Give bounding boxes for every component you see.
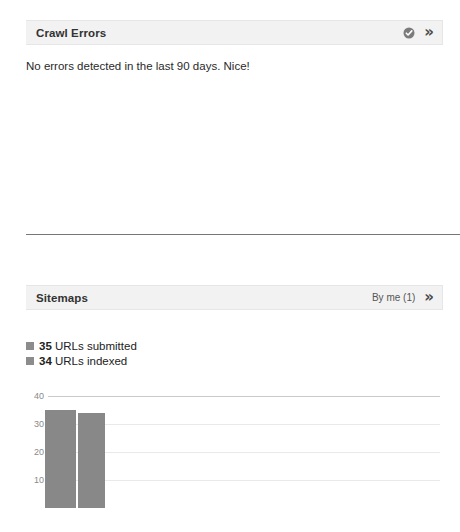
legend-item: 34 URLs indexed [26, 354, 137, 367]
legend-item-text: URLs indexed [52, 355, 127, 367]
chart-bar[interactable] [45, 410, 76, 508]
crawl-errors-title: Crawl Errors [36, 27, 106, 39]
double-chevron-right-icon[interactable]: » [424, 290, 434, 305]
sitemaps-filter-label[interactable]: By me (1) [372, 292, 415, 303]
sitemaps-header[interactable]: Sitemaps By me (1) » [26, 285, 443, 310]
legend-item-value: 34 [39, 355, 52, 367]
legend-item-label: 34 URLs indexed [39, 355, 127, 367]
legend-item: 35 URLs submitted [26, 339, 137, 352]
section-divider [26, 234, 460, 235]
chart-ytick-label: 30 [26, 419, 44, 429]
chart-ytick-label: 20 [26, 447, 44, 457]
legend-swatch-icon [26, 342, 34, 350]
legend-item-text: URLs submitted [52, 340, 137, 352]
crawl-errors-panel: Crawl Errors » [26, 20, 443, 45]
crawl-errors-header[interactable]: Crawl Errors » [26, 20, 443, 45]
check-circle-icon[interactable] [403, 27, 415, 39]
chart-ytick-label: 40 [26, 391, 44, 401]
sitemaps-bar-chart: 40 30 20 10 [26, 388, 440, 518]
legend-swatch-icon [26, 357, 34, 365]
chart-bars [45, 396, 245, 508]
sitemaps-header-actions: By me (1) » [372, 290, 434, 305]
legend-item-label: 35 URLs submitted [39, 340, 137, 352]
crawl-errors-message: No errors detected in the last 90 days. … [26, 60, 250, 72]
crawl-errors-header-actions: » [403, 25, 434, 40]
legend-item-value: 35 [39, 340, 52, 352]
chart-ytick-label: 10 [26, 475, 44, 485]
sitemaps-title: Sitemaps [36, 292, 88, 304]
sitemaps-panel: Sitemaps By me (1) » [26, 285, 443, 310]
double-chevron-right-icon[interactable]: » [424, 25, 434, 40]
sitemaps-legend: 35 URLs submitted 34 URLs indexed [26, 339, 137, 369]
chart-bar[interactable] [78, 413, 105, 508]
